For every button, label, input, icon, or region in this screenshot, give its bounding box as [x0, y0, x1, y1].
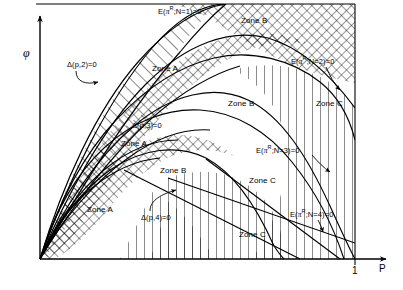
zone-label-a-2: Zone A: [121, 140, 147, 148]
y-axis-label: φ: [23, 47, 30, 59]
curve-label-eR-n3: E(πR;N=3)=0: [256, 145, 299, 154]
zone-label-b-1: Zone B: [241, 17, 267, 25]
x-axis-tick-label: 1: [352, 266, 358, 276]
diagram-canvas: [0, 0, 403, 290]
curve-label-delta-p2: Δ(p,2)=0: [67, 61, 97, 69]
zone-label-b-3: Zone B: [160, 167, 186, 175]
curve-label-delta-p3: Δ(p,3)=0: [132, 122, 162, 130]
curve-label-delta-p4: Δ(p,4)=0: [141, 214, 171, 222]
zone-label-c-1: Zone C: [316, 100, 343, 108]
curve-label-eR-n4: E(πR;N=4)=0: [290, 209, 333, 218]
curve-label-eR-n1: E(πR;N=1)=0: [158, 6, 201, 15]
zone-label-c-3: Zone C: [239, 231, 266, 239]
zone-label-a-3: Zone A: [87, 206, 113, 214]
zone-label-b-2: Zone B: [228, 100, 254, 108]
zone-label-a-1: Zone A: [152, 65, 178, 73]
zone-label-c-2: Zone C: [249, 177, 276, 185]
leader-delta-p2: [76, 71, 98, 83]
curve-label-eR-n2: E(πR;N=2)=0: [291, 56, 334, 65]
hatched-regions: [40, 4, 355, 260]
x-axis-label: P: [379, 264, 386, 274]
phase-diagram-figure: E(πR;N=1)=0 E(πR;N=2)=0 E(πR;N=3)=0 E(πR…: [0, 0, 403, 290]
